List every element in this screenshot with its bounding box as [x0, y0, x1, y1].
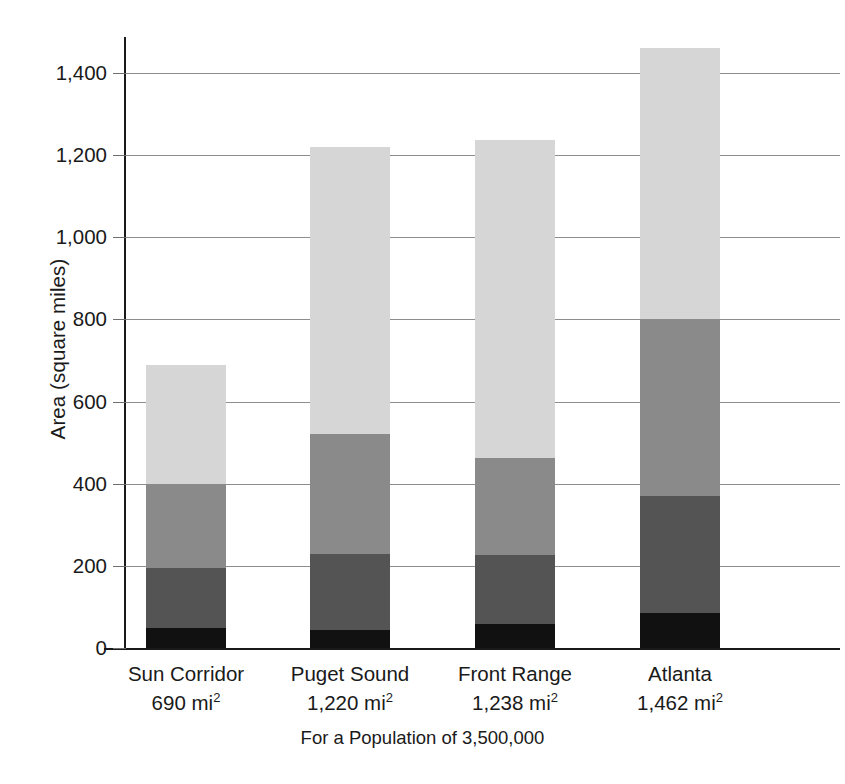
x-axis-title: For a Population of 3,500,000 [0, 727, 845, 749]
y-axis-tick-mark [113, 402, 126, 403]
y-axis-tick-label: 200 [73, 554, 107, 578]
bar-segment [146, 484, 226, 568]
bar-segment [310, 630, 390, 648]
superscript-two: 2 [551, 690, 558, 705]
category-area-value: 1,462 mi2 [580, 688, 780, 717]
bar-segment [146, 628, 226, 648]
y-axis-tick-label: 600 [73, 390, 107, 414]
bar [146, 365, 226, 648]
superscript-two: 2 [386, 690, 393, 705]
bar-segment [146, 568, 226, 628]
y-axis-tick-label: 0 [96, 636, 107, 660]
y-axis-tick-label: 1,000 [56, 225, 107, 249]
bar-segment [640, 613, 720, 648]
bar-segment [475, 458, 555, 555]
y-axis-tick-label: 800 [73, 307, 107, 331]
bar-segment [146, 365, 226, 484]
y-axis-tick-label: 1,400 [56, 61, 107, 85]
bar-segment [310, 147, 390, 434]
bar-segment [310, 554, 390, 630]
bar [640, 48, 720, 648]
y-axis-tick-label: 1,200 [56, 143, 107, 167]
bar-segment [475, 624, 555, 648]
bar-segment [640, 48, 720, 320]
y-axis-tick-mark [113, 155, 126, 156]
y-axis-tick-mark [113, 319, 126, 320]
superscript-two: 2 [213, 690, 220, 705]
bar-segment [640, 496, 720, 613]
y-axis-tick-mark [113, 648, 126, 649]
y-axis-tick-mark [113, 237, 126, 238]
x-axis-category-label: Atlanta1,462 mi2 [580, 659, 780, 717]
bar-segment [475, 555, 555, 624]
bar [310, 147, 390, 648]
bar-segment [475, 140, 555, 458]
superscript-two: 2 [716, 690, 723, 705]
x-axis-spine [104, 648, 840, 650]
y-axis-spine [124, 37, 126, 650]
stacked-bar-chart: Area (square miles) 02004006008001,0001,… [0, 0, 845, 784]
plot-area: 02004006008001,0001,2001,400 [124, 37, 840, 650]
bar-segment [310, 434, 390, 553]
y-axis-tick-label: 400 [73, 472, 107, 496]
bar [475, 140, 555, 648]
bar-segment [640, 319, 720, 496]
y-axis-tick-mark [113, 73, 126, 74]
gridline [126, 73, 840, 74]
category-name: Atlanta [580, 659, 780, 688]
y-axis-tick-mark [113, 484, 126, 485]
y-axis-tick-mark [113, 566, 126, 567]
